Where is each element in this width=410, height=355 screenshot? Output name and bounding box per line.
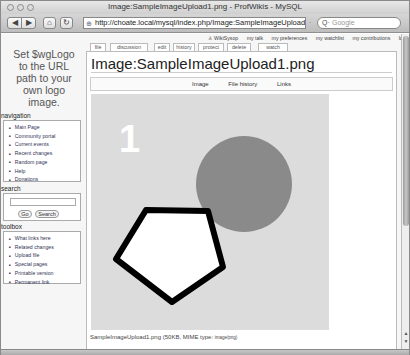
- title-bar: Image:SampleImageUpload1.png - ProfWikis…: [1, 1, 409, 14]
- search-portlet: Go Search: [3, 193, 81, 221]
- wiki-search-input[interactable]: [10, 198, 76, 206]
- toc-link-file-history[interactable]: File history: [228, 81, 257, 87]
- title-divider: [91, 72, 392, 73]
- tool-permanent-link[interactable]: Permanent link: [9, 278, 80, 287]
- scroll-up-arrow-icon[interactable]: ▲: [403, 330, 409, 336]
- reload-button[interactable]: ↻: [60, 17, 73, 29]
- user-icon: ♙: [208, 35, 212, 41]
- toc-link-image[interactable]: Image: [192, 81, 209, 87]
- search-placeholder: Google: [332, 19, 355, 26]
- file-link[interactable]: SampleImageUpload1.png: [90, 334, 161, 340]
- forward-button[interactable]: ▶: [21, 17, 36, 29]
- window-title: Image:SampleImageUpload1.png - ProfWikis…: [1, 2, 409, 11]
- tab-delete[interactable]: delete: [227, 43, 251, 51]
- back-button[interactable]: ◀: [7, 17, 22, 29]
- nav-item-recent-changes[interactable]: Recent changes: [9, 149, 80, 158]
- scroll-thumb[interactable]: [403, 36, 409, 226]
- search-title: search: [1, 185, 21, 192]
- mime-type: image/png): [215, 335, 238, 340]
- browser-toolbar: ◀ ▶ ⌂ ↻ ⊕ http://choate.local/mysql/inde…: [1, 14, 409, 33]
- tab-file[interactable]: file: [90, 43, 106, 51]
- tool-special-pages[interactable]: Special pages: [9, 260, 80, 269]
- logo-line: image.: [5, 96, 83, 108]
- personal-link-user[interactable]: WikiSysop: [214, 35, 238, 41]
- status-bar: [1, 349, 409, 355]
- image-number-label: 1: [119, 118, 140, 160]
- globe-icon: ⊕: [86, 19, 92, 29]
- sample-image-graphic: 1: [91, 94, 329, 330]
- navigation-portlet: Main Page Community portal Current event…: [3, 120, 81, 182]
- scroll-down-arrow-icon[interactable]: ▼: [403, 338, 409, 344]
- site-logo[interactable]: Set $wgLogo to the URL path to your own …: [5, 44, 83, 114]
- logo-line: own logo: [5, 84, 83, 96]
- tool-what-links-here[interactable]: What links here: [9, 234, 80, 243]
- tool-upload-file[interactable]: Upload file: [9, 251, 80, 260]
- logo-line: to the URL: [5, 60, 83, 72]
- go-button[interactable]: Go: [18, 210, 32, 218]
- nav-item-community-portal[interactable]: Community portal: [9, 132, 80, 141]
- page-title: Image:SampleImageUpload1.png: [91, 55, 314, 72]
- uploaded-image[interactable]: 1: [91, 94, 329, 330]
- url-text: http://choate.local/mysql/index.php/Imag…: [95, 18, 306, 27]
- nav-item-donations[interactable]: Donations: [9, 175, 80, 184]
- tool-printable-version[interactable]: Printable version: [9, 269, 80, 278]
- nav-item-help[interactable]: Help: [9, 167, 80, 176]
- tab-discussion[interactable]: discussion: [110, 43, 148, 51]
- url-field[interactable]: ⊕ http://choate.local/mysql/index.php/Im…: [83, 17, 306, 29]
- nav-item-current-events[interactable]: Current events: [9, 140, 80, 149]
- toolbox-portlet: What links here Related changes Upload f…: [3, 231, 81, 284]
- toc-link-links[interactable]: Links: [277, 81, 291, 87]
- file-size: (50KB, MIME type:: [163, 334, 213, 340]
- personal-link-watchlist[interactable]: my watchlist: [316, 35, 344, 41]
- search-field[interactable]: Q· Google: [317, 17, 401, 29]
- tab-history[interactable]: history: [173, 43, 195, 51]
- file-caption: SampleImageUpload1.png (50KB, MIME type:…: [90, 334, 237, 340]
- home-button[interactable]: ⌂: [43, 17, 56, 29]
- vertical-scrollbar[interactable]: ▲ ▼: [401, 34, 409, 349]
- navigation-title: navigation: [1, 112, 31, 119]
- search-button[interactable]: Search: [35, 210, 59, 218]
- personal-link-contributions[interactable]: my contributions: [352, 35, 390, 41]
- tool-related-changes[interactable]: Related changes: [9, 243, 80, 252]
- tab-edit[interactable]: edit: [154, 43, 170, 51]
- search-icon: Q·: [322, 18, 330, 28]
- file-toc: Image File history Links: [90, 77, 393, 91]
- personal-link-preferences[interactable]: my preferences: [272, 35, 308, 41]
- nav-item-random-page[interactable]: Random page: [9, 158, 80, 167]
- browser-window: Image:SampleImageUpload1.png - ProfWikis…: [0, 0, 410, 355]
- tab-protect[interactable]: protect: [198, 43, 224, 51]
- logo-line: path to your: [5, 72, 83, 84]
- page-content: ♙WikiSysop my talk my preferences my wat…: [1, 34, 401, 349]
- nav-item-main-page[interactable]: Main Page: [9, 123, 80, 132]
- toolbox-title: toolbox: [1, 223, 22, 230]
- tab-watch[interactable]: watch: [258, 43, 288, 51]
- snapback-icon[interactable]: ·: [309, 19, 311, 26]
- personal-tools: ♙WikiSysop my talk my preferences my wat…: [201, 35, 395, 41]
- personal-link-talk[interactable]: my talk: [247, 35, 263, 41]
- main-content: Image:SampleImageUpload1.png Image File …: [86, 51, 397, 349]
- logo-line: Set $wgLogo: [5, 48, 83, 60]
